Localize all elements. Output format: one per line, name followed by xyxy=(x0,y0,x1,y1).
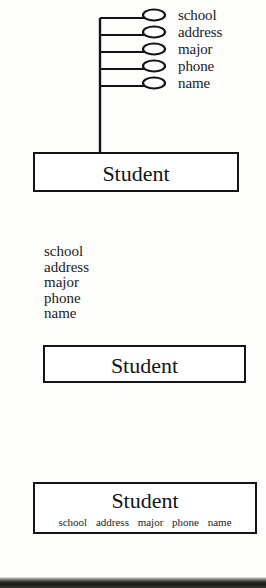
entity-box-student-3: Student school address major phone name xyxy=(33,482,257,534)
attribute-ellipse-school xyxy=(143,10,165,21)
attribute-list-item-name: name xyxy=(44,306,89,322)
attribute-label-school: school xyxy=(178,8,217,23)
diagram-list-notation: school address major phone name Student xyxy=(0,200,266,400)
attribute-list-item-phone: phone xyxy=(44,291,89,307)
entity-title: Student xyxy=(35,490,255,512)
inline-attribute-name: name xyxy=(208,516,232,528)
attribute-ellipse-major xyxy=(143,44,165,55)
inline-attribute-address: address xyxy=(96,516,129,528)
entity-title: Student xyxy=(35,163,237,185)
attribute-list-item-address: address xyxy=(44,260,89,276)
inline-attribute-school: school xyxy=(58,516,87,528)
figure-page: school address major phone name Student … xyxy=(0,0,266,588)
attribute-label-address: address xyxy=(178,25,222,40)
attribute-list-item-major: major xyxy=(44,275,89,291)
inline-attribute-major: major xyxy=(138,516,164,528)
inline-attribute-phone: phone xyxy=(172,516,199,528)
scanned-page-edge xyxy=(0,577,266,588)
attribute-list: school address major phone name xyxy=(44,244,89,322)
diagram-inline-attributes-notation: Student school address major phone name xyxy=(0,400,266,588)
entity-box-student-2: Student xyxy=(43,345,246,383)
inline-attribute-row: school address major phone name xyxy=(35,516,255,528)
attribute-list-item-school: school xyxy=(44,244,89,260)
entity-title: Student xyxy=(45,355,244,377)
attribute-label-major: major xyxy=(178,42,213,57)
attribute-ellipse-name xyxy=(143,78,165,89)
diagram-ellipse-notation: school address major phone name Student xyxy=(0,0,266,200)
attribute-label-name: name xyxy=(178,76,210,91)
attribute-ellipse-address xyxy=(143,27,165,38)
attribute-label-phone: phone xyxy=(178,59,214,74)
attribute-ellipse-phone xyxy=(143,61,165,72)
entity-box-student-1: Student xyxy=(33,152,239,192)
